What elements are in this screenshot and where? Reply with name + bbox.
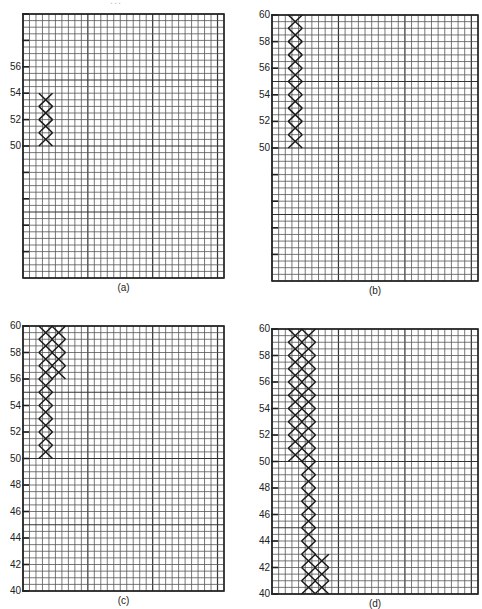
- y-axis-label: 52: [3, 114, 21, 125]
- y-axis-label: 52: [252, 429, 270, 440]
- page-header-fragment: ...: [110, 0, 122, 6]
- graph-paper-grid: [23, 326, 224, 591]
- panel-caption: (b): [355, 285, 395, 296]
- y-axis-label: 56: [252, 62, 270, 73]
- y-axis-label: 48: [252, 482, 270, 493]
- y-axis-label: 54: [252, 403, 270, 414]
- graph-paper-grid: [23, 14, 224, 278]
- y-axis-label: 56: [3, 373, 21, 384]
- y-axis-label: 48: [3, 479, 21, 490]
- y-axis-label: 44: [252, 535, 270, 546]
- y-axis-label: 44: [3, 532, 21, 543]
- y-axis-label: 50: [252, 142, 270, 153]
- y-axis-label: 60: [3, 320, 21, 331]
- y-axis-label: 42: [252, 562, 270, 573]
- y-axis-label: 58: [3, 347, 21, 358]
- y-axis-label: 50: [3, 140, 21, 151]
- y-axis-label: 56: [252, 376, 270, 387]
- y-axis-label: 46: [3, 506, 21, 517]
- graph-paper-grid: [272, 15, 478, 281]
- y-axis-label: 52: [252, 115, 270, 126]
- y-axis-label: 54: [3, 400, 21, 411]
- y-axis-label: 54: [3, 87, 21, 98]
- y-axis-label: 52: [3, 426, 21, 437]
- y-axis-label: 58: [252, 36, 270, 47]
- panel-caption: (a): [104, 282, 144, 293]
- y-axis-label: 60: [252, 9, 270, 20]
- y-axis-label: 40: [252, 588, 270, 599]
- panel-d: 6058565452504846444240(d): [272, 329, 478, 594]
- y-axis-label: 42: [3, 559, 21, 570]
- y-axis-label: 58: [252, 350, 270, 361]
- panel-c: 6058565452504846444240(c): [23, 326, 224, 591]
- y-axis-label: 40: [3, 585, 21, 596]
- graph-paper-grid: [272, 329, 478, 594]
- y-axis-label: 50: [252, 456, 270, 467]
- y-axis-label: 54: [252, 89, 270, 100]
- panel-b: 605856545250(b): [272, 15, 478, 281]
- panel-caption: (d): [355, 598, 395, 609]
- y-axis-label: 50: [3, 453, 21, 464]
- panel-a: 56545250(a): [23, 14, 224, 278]
- y-axis-label: 60: [252, 323, 270, 334]
- y-axis-label: 56: [3, 61, 21, 72]
- y-axis-label: 46: [252, 509, 270, 520]
- panel-caption: (c): [104, 595, 144, 606]
